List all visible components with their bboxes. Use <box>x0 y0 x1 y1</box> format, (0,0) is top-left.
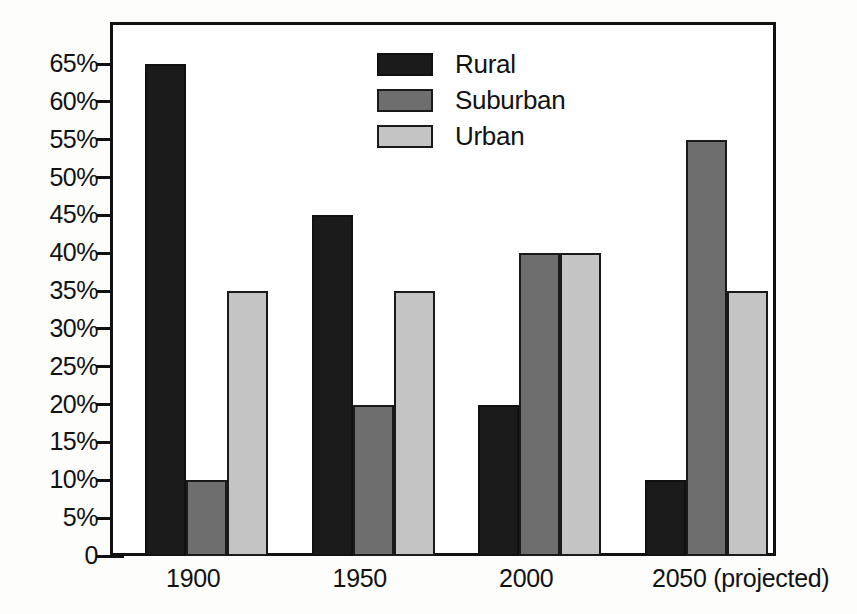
legend-label-rural: Rural <box>455 51 516 77</box>
legend-item-suburban: Suburban <box>377 84 565 116</box>
bar-rural-1950 <box>312 215 353 556</box>
bar-suburban-1900 <box>186 480 227 556</box>
y-axis-tick-label: 5% <box>63 505 98 530</box>
bar-rural-1900 <box>145 64 186 556</box>
y-axis-tick-label: 45% <box>49 202 98 227</box>
chart-legend: Rural Suburban Urban <box>377 48 565 156</box>
x-axis-tick-label: 2050 (projected) <box>652 566 829 591</box>
bar-urban-2000 <box>560 253 601 556</box>
y-axis-tick-label: 0 <box>85 543 98 568</box>
y-axis-tick-label: 30% <box>49 316 98 341</box>
legend-swatch-urban-icon <box>377 125 433 148</box>
x-axis-tick-label: 1950 <box>333 566 387 591</box>
legend-item-urban: Urban <box>377 120 565 152</box>
bar-rural-2000 <box>478 405 519 556</box>
bar-urban-1950 <box>394 291 435 556</box>
y-axis-tick-label: 50% <box>49 165 98 190</box>
y-axis-tick-label: 65% <box>49 51 98 76</box>
bar-suburban-2050 <box>686 140 727 556</box>
legend-item-rural: Rural <box>377 48 565 80</box>
bar-chart: 05%10%15%20%25%30%35%40%45%50%55%60%65% … <box>0 0 857 614</box>
y-axis-tick-label: 35% <box>49 278 98 303</box>
bar-urban-1900 <box>227 291 268 556</box>
y-axis-tick-label: 10% <box>49 467 98 492</box>
y-axis-tick-label: 40% <box>49 240 98 265</box>
bar-suburban-1950 <box>353 405 394 556</box>
legend-label-urban: Urban <box>455 123 524 149</box>
x-axis-tick-label: 2000 <box>499 566 553 591</box>
bar-urban-2050 <box>727 291 768 556</box>
bar-rural-2050 <box>645 480 686 556</box>
y-axis-tick-label: 55% <box>49 127 98 152</box>
y-axis-tick-label: 15% <box>49 429 98 454</box>
legend-swatch-rural-icon <box>377 53 433 76</box>
bar-suburban-2000 <box>519 253 560 556</box>
legend-label-suburban: Suburban <box>455 87 565 113</box>
y-axis-tick-label: 20% <box>49 392 98 417</box>
x-axis-tick-label: 1900 <box>166 566 220 591</box>
legend-swatch-suburban-icon <box>377 89 433 112</box>
y-axis-tick-label: 60% <box>49 89 98 114</box>
y-axis-tick-label: 25% <box>49 354 98 379</box>
